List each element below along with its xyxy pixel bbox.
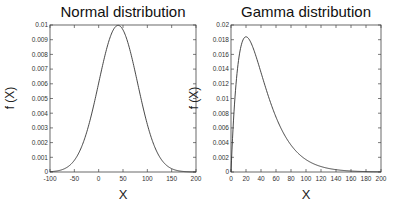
y-tick-label: 0.006 xyxy=(213,124,230,131)
axes-frame xyxy=(50,25,196,172)
y-tick-label: 0.002 xyxy=(213,154,230,161)
y-tick-label: 0.018 xyxy=(213,36,230,43)
pdf-curve xyxy=(50,25,196,172)
y-tick-label: 0.014 xyxy=(213,65,230,72)
y-tick-label: 0 xyxy=(44,168,48,175)
x-tick-label: -100 xyxy=(43,175,56,182)
y-tick-label: 0.006 xyxy=(32,80,49,87)
x-tick-label: 40 xyxy=(257,175,265,182)
axes-frame xyxy=(231,25,381,172)
y-tick-label: 0.01 xyxy=(35,21,48,28)
normal-distribution-panel: Normal distribution f (X) X -100-5005010… xyxy=(0,0,202,209)
normal-plot-area: -100-5005010015020000.0010.0020.0030.004… xyxy=(0,0,202,209)
x-tick-label: 60 xyxy=(272,175,280,182)
x-tick-label: 200 xyxy=(376,175,387,182)
y-tick-label: 0.01 xyxy=(216,95,229,102)
y-tick-label: 0.001 xyxy=(32,154,49,161)
x-tick-label: 180 xyxy=(361,175,372,182)
x-tick-label: 80 xyxy=(287,175,295,182)
x-tick-label: 20 xyxy=(242,175,250,182)
y-tick-label: 0.003 xyxy=(32,124,49,131)
x-tick-label: 140 xyxy=(331,175,342,182)
x-tick-label: 100 xyxy=(301,175,312,182)
y-tick-label: 0.016 xyxy=(213,51,230,58)
y-tick-label: 0.004 xyxy=(32,110,49,117)
y-tick-label: 0.004 xyxy=(213,139,230,146)
gamma-distribution-panel: Gamma distribution f (X) X 0204060801001… xyxy=(202,0,404,209)
x-tick-label: 0 xyxy=(97,175,101,182)
y-tick-label: 0.005 xyxy=(32,95,49,102)
gamma-plot-area: 02040608010012014016018020000.0020.0040.… xyxy=(202,0,404,209)
y-tick-label: 0 xyxy=(225,168,229,175)
x-tick-label: 120 xyxy=(316,175,327,182)
y-tick-label: 0.007 xyxy=(32,65,49,72)
y-tick-label: 0.002 xyxy=(32,139,49,146)
x-tick-label: 0 xyxy=(229,175,233,182)
y-tick-label: 0.02 xyxy=(216,21,229,28)
y-tick-label: 0.009 xyxy=(32,36,49,43)
pdf-curve xyxy=(231,37,381,172)
y-tick-label: 0.012 xyxy=(213,80,230,87)
y-tick-label: 0.008 xyxy=(213,110,230,117)
x-tick-label: -50 xyxy=(70,175,80,182)
x-tick-label: 160 xyxy=(346,175,357,182)
y-tick-label: 0.008 xyxy=(32,51,49,58)
x-tick-label: 200 xyxy=(191,175,202,182)
x-tick-label: 50 xyxy=(119,175,127,182)
x-tick-label: 100 xyxy=(142,175,153,182)
x-tick-label: 150 xyxy=(166,175,177,182)
gamma-y-axis-label: f (X) xyxy=(187,87,201,110)
